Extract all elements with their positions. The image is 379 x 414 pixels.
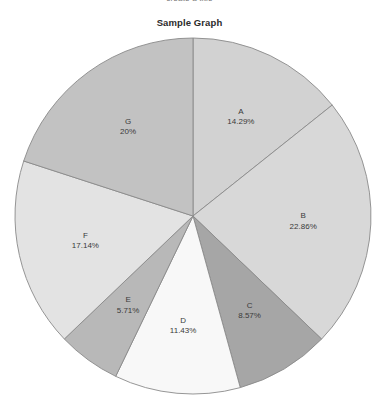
- pie-slice-group: [15, 38, 371, 394]
- pie-svg: [0, 0, 379, 414]
- pie-chart-figure: create a title Sample Graph A14.29%B22.8…: [0, 0, 379, 414]
